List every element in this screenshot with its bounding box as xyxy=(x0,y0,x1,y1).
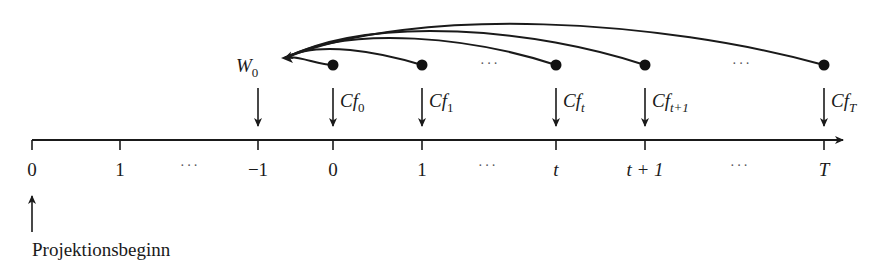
cash-flow-label: Cft xyxy=(563,90,585,115)
projection-start-label: Projektionsbeginn xyxy=(32,239,171,260)
axis-tick-label: 0 xyxy=(328,159,338,180)
cash-flow-dot xyxy=(819,60,830,71)
axis-ellipsis: ··· xyxy=(180,158,200,173)
axis-tick-label: 1 xyxy=(417,159,427,180)
discount-arc xyxy=(285,57,333,65)
axis-tick-label: t xyxy=(553,159,559,180)
cash-flow-label: CfT xyxy=(831,90,857,115)
axis-tick-label: 0 xyxy=(27,159,37,180)
axis-ellipsis: ··· xyxy=(478,158,498,173)
cash-flow-dot xyxy=(417,60,428,71)
discount-arc xyxy=(285,31,645,65)
cash-flow-ellipsis: ··· xyxy=(480,56,500,71)
cash-flow-label: Cft+1 xyxy=(652,90,689,115)
axis-tick-label: T xyxy=(819,159,831,180)
cash-flow-timeline-diagram: W0 Cf0Cf1CftCft+1CfT······ 01−101tt + 1T… xyxy=(0,0,877,274)
axis-tick-label: 1 xyxy=(115,159,125,180)
axis-tick-label: −1 xyxy=(248,159,268,180)
present-value-label: W0 xyxy=(236,55,258,80)
axis-ticks: 01−101tt + 1T········· xyxy=(27,140,830,180)
cash-flow-dot xyxy=(640,60,651,71)
axis-tick-label: t + 1 xyxy=(626,159,663,180)
cash-flow-ellipsis: ··· xyxy=(732,56,752,71)
cash-flow-dot xyxy=(551,60,562,71)
cash-flow-markers: Cf0Cf1CftCft+1CfT······ xyxy=(328,56,857,126)
axis-ellipsis: ··· xyxy=(730,158,750,173)
cash-flow-dot xyxy=(328,60,339,71)
cash-flow-label: Cf1 xyxy=(429,90,453,115)
cash-flow-label: Cf0 xyxy=(340,90,364,115)
